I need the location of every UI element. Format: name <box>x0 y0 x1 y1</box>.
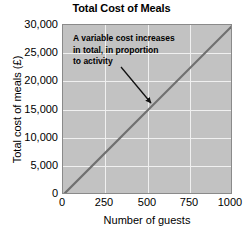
x-axis-tick-labels: 0 250 500 750 1000 <box>0 196 243 210</box>
x-tick-label: 1000 <box>205 196 243 208</box>
y-tick-label: 30,000 <box>6 19 58 30</box>
annotation-line-2: in total, in proportion <box>73 45 203 57</box>
annotation-line-1: A variable cost increases <box>73 33 203 45</box>
chart-figure: Total Cost of Meals 30,000 25,000 20,000… <box>0 0 243 238</box>
annotation-note: A variable cost increases in total, in p… <box>73 33 203 68</box>
annotation-line-3: to activity <box>73 56 203 68</box>
y-axis-label: Total cost of meals (£) <box>11 30 24 190</box>
x-axis-label: Number of guests <box>62 214 232 227</box>
